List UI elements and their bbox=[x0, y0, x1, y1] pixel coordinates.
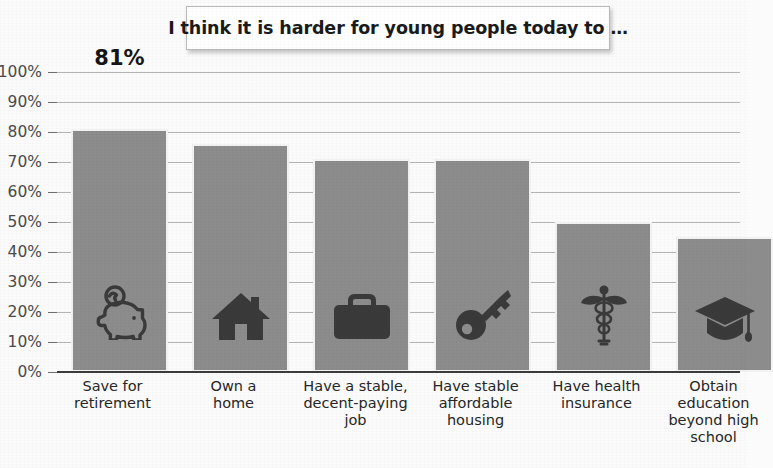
bar-own-a-home[interactable] bbox=[192, 144, 289, 372]
bar-have-stable-affordable-housing[interactable] bbox=[434, 159, 531, 372]
category-line: housing bbox=[419, 412, 532, 429]
y-tick-mark bbox=[48, 282, 57, 283]
category-line: affordable bbox=[419, 395, 532, 412]
x-axis-category-label: Have health insurance bbox=[538, 378, 655, 412]
category-line: Have a stable, bbox=[296, 378, 415, 395]
chart-title-box: I think it is harder for young people to… bbox=[186, 6, 610, 50]
graduation-cap-icon bbox=[694, 295, 756, 345]
y-axis-tick-label: 70% bbox=[0, 153, 42, 171]
y-axis-tick-label: 30% bbox=[0, 273, 42, 291]
y-tick-mark bbox=[48, 132, 57, 133]
y-axis-tick-label: 40% bbox=[0, 243, 42, 261]
category-line: home bbox=[177, 395, 290, 412]
plot-area: 81% 76% 71% bbox=[57, 72, 740, 372]
gridline bbox=[57, 102, 740, 103]
y-tick-mark bbox=[48, 222, 57, 223]
y-tick-mark bbox=[48, 162, 57, 163]
bar-obtain-education-beyond-high-school[interactable] bbox=[676, 237, 773, 372]
caduceus-icon bbox=[577, 284, 631, 346]
category-line: beyond high bbox=[657, 412, 770, 429]
y-axis-tick-label: 80% bbox=[0, 123, 42, 141]
y-tick-mark bbox=[48, 372, 57, 373]
gridline bbox=[57, 72, 740, 73]
bar-have-a-stable-decent-paying-job[interactable] bbox=[313, 159, 410, 372]
y-axis-tick-label: 60% bbox=[0, 183, 42, 201]
x-axis-line bbox=[57, 371, 740, 373]
y-axis-tick-label: 90% bbox=[0, 93, 42, 111]
x-axis-category-label: Save for retirement bbox=[56, 378, 169, 412]
briefcase-icon bbox=[332, 291, 392, 341]
key-icon bbox=[454, 288, 512, 342]
y-tick-mark bbox=[48, 342, 57, 343]
y-tick-mark bbox=[48, 252, 57, 253]
y-axis-tick-label: 20% bbox=[0, 303, 42, 321]
house-icon bbox=[211, 290, 271, 342]
y-axis-tick-label: 50% bbox=[0, 213, 42, 231]
x-axis-category-label: Own a home bbox=[177, 378, 290, 412]
category-line: school bbox=[657, 429, 770, 446]
bar-save-for-retirement[interactable] bbox=[71, 129, 168, 372]
bar-value-label: 81% bbox=[71, 46, 168, 70]
y-tick-mark bbox=[48, 312, 57, 313]
y-axis-tick-label: 100% bbox=[0, 63, 42, 81]
category-line: Obtain bbox=[657, 378, 770, 395]
category-line: Have health bbox=[538, 378, 655, 395]
y-tick-mark bbox=[48, 102, 57, 103]
category-line: job bbox=[296, 412, 415, 429]
category-line: education bbox=[657, 395, 770, 412]
y-tick-mark bbox=[48, 192, 57, 193]
chart-title: I think it is harder for young people to… bbox=[168, 18, 628, 38]
x-axis-category-label: Have a stable, decent-paying job bbox=[296, 378, 415, 429]
bar-have-health-insurance[interactable] bbox=[555, 222, 652, 372]
category-line: Have stable bbox=[419, 378, 532, 395]
category-line: insurance bbox=[538, 395, 655, 412]
category-line: Save for bbox=[56, 378, 169, 395]
y-axis-tick-label: 10% bbox=[0, 333, 42, 351]
x-axis-category-label: Obtain education beyond high school bbox=[657, 378, 770, 446]
x-axis-category-label: Have stable affordable housing bbox=[419, 378, 532, 429]
category-line: retirement bbox=[56, 395, 169, 412]
y-tick-mark bbox=[48, 72, 57, 73]
category-line: Own a bbox=[177, 378, 290, 395]
piggy-bank-icon bbox=[89, 284, 151, 340]
y-axis-tick-label: 0% bbox=[0, 363, 42, 381]
category-line: decent-paying bbox=[296, 395, 415, 412]
